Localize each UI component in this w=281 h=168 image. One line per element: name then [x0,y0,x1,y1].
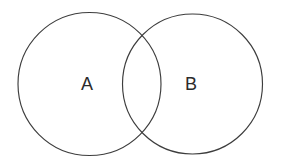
venn-label-a: A [81,74,93,94]
venn-label-b: B [185,74,197,94]
venn-diagram-figure: A B [0,0,281,168]
venn-diagram-canvas: A B [0,0,281,168]
